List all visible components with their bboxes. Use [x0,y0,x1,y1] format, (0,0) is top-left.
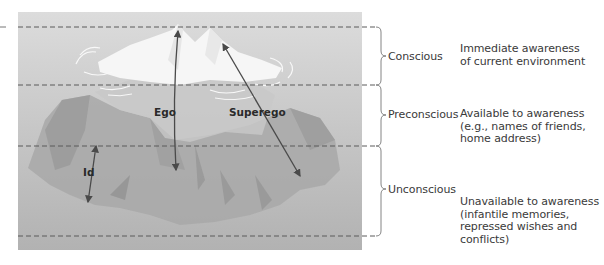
desc-line: home address) [460,133,586,146]
desc-line: of current environment [460,56,585,69]
desc-line: conflicts) [460,234,599,247]
desc-preconscious: Available to awareness (e.g., names of f… [460,108,586,146]
desc-unconscious: Unavailable to awareness (infantile memo… [460,196,599,246]
desc-line: Available to awareness [460,108,586,121]
iceberg-mind-diagram: Ego Superego Id Conscious Preconscious U… [0,0,604,265]
ego-label: Ego [154,106,176,118]
level-label-unconscious: Unconscious [388,183,456,196]
superego-label: Superego [229,106,286,118]
level-label-conscious: Conscious [388,50,443,63]
brace-unconscious [376,146,386,236]
level-label-preconscious: Preconscious [388,108,458,121]
desc-line: Unavailable to awareness [460,196,599,209]
desc-line: Immediate awareness [460,43,585,56]
desc-line: repressed wishes and [460,221,599,234]
level-braces [376,27,386,236]
brace-conscious [376,27,386,85]
id-label: Id [83,166,94,178]
desc-conscious: Immediate awareness of current environme… [460,43,585,68]
brace-preconscious [376,85,386,146]
